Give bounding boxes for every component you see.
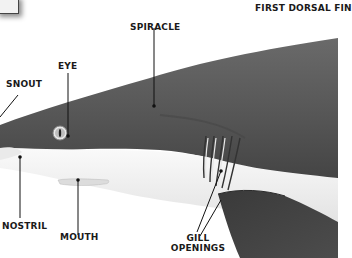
label-gill-line1: GILL [170,233,226,243]
label-nostril: NOSTRIL [2,221,47,231]
label-snout: SNOUT [6,79,42,89]
label-mouth: MOUTH [60,232,99,242]
label-spiracle: SPIRACLE [130,22,180,32]
label-gill-openings: GILL OPENINGS [170,233,226,253]
label-first-dorsal-fin: FIRST DORSAL FIN [255,3,352,13]
label-gill-line2: OPENINGS [170,243,226,253]
eye-icon [53,126,67,140]
mouth-line [58,179,109,186]
label-eye: EYE [58,61,77,71]
